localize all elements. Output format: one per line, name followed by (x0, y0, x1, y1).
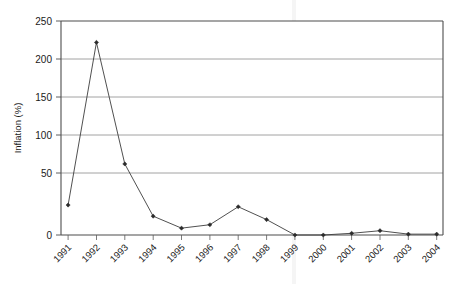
y-tick-label: 250 (35, 16, 52, 27)
y-tick-label: 50 (41, 168, 53, 179)
y-tick-label: 0 (46, 230, 52, 241)
y-tick-label: 100 (35, 130, 52, 141)
plot-area (61, 21, 443, 235)
y-tick-label: 200 (35, 54, 52, 65)
chart-figure: 250 200 150 100 50 0 Inflation (%) (0, 0, 459, 284)
y-tick-label: 150 (35, 92, 52, 103)
inflation-line-chart: 250 200 150 100 50 0 Inflation (%) (0, 0, 459, 284)
y-axis-title: Inflation (%) (12, 103, 23, 154)
